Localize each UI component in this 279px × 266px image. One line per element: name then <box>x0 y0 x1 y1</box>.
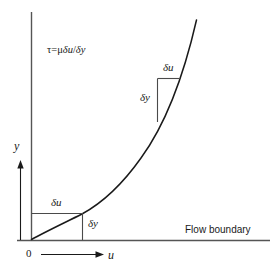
equation-delta-y: δy <box>76 44 86 55</box>
y-axis-arrowhead-icon <box>17 160 23 169</box>
velocity-profile-figure: τ=μδu/δy y u 0 δu δy δu δy Flow boundary <box>0 0 279 266</box>
origin-label: 0 <box>26 248 32 259</box>
u-axis-arrowhead-icon <box>96 251 105 257</box>
equation-delta-u: δu <box>63 44 73 55</box>
upper-delta-y-label: δy <box>140 92 150 103</box>
flow-boundary-label: Flow boundary <box>185 225 251 235</box>
y-axis-label: y <box>14 140 19 152</box>
upper-delta-u-label: δu <box>163 62 174 73</box>
shear-stress-equation: τ=μδu/δy <box>47 44 85 55</box>
lower-delta-y-label: δy <box>88 218 98 229</box>
u-axis-label: u <box>108 249 114 261</box>
lower-delta-u-label: δu <box>51 197 62 208</box>
